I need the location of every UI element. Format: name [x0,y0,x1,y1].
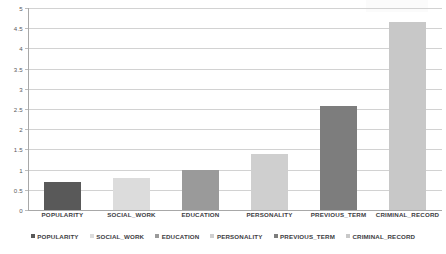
legend-swatch-icon [31,234,35,238]
legend-label: PREVIOUS_TERM [280,233,335,240]
legend-label: POPULARITY [37,233,78,240]
legend-item[interactable]: CRIMINAL_RECORD [346,233,415,240]
bars-layer [28,8,442,211]
y-axis-tick-labels: 00.511.522.533.544.55 [0,8,26,211]
bar [182,170,219,210]
category-label: SOCIAL_WORK [97,211,166,218]
legend-label: PERSONALITY [217,233,263,240]
category-label: PERSONALITY [235,211,304,218]
category-label: EDUCATION [166,211,235,218]
chart-legend: POPULARITYSOCIAL_WORKEDUCATIONPERSONALIT… [0,230,446,242]
x-axis-category-labels: POPULARITYSOCIAL_WORKEDUCATIONPERSONALIT… [28,211,442,225]
y-tick-label: 4.5 [14,25,23,32]
category-label: CRIMINAL_RECORD [373,211,442,218]
y-tick-label: 5 [19,5,23,12]
legend-item[interactable]: PERSONALITY [210,233,262,240]
legend-label: SOCIAL_WORK [96,233,144,240]
bar [389,22,426,210]
legend-item[interactable]: EDUCATION [155,233,199,240]
legend-swatch-icon [155,234,159,238]
y-tick-label: 0.5 [14,186,23,193]
y-tick-label: 1 [19,166,23,173]
y-tick-label: 3.5 [14,65,23,72]
bar [113,178,150,210]
legend-swatch-icon [90,234,94,238]
legend-label: CRIMINAL_RECORD [352,233,415,240]
y-tick-label: 4 [19,45,23,52]
legend-item[interactable]: SOCIAL_WORK [90,233,145,240]
legend-item[interactable]: POPULARITY [31,233,79,240]
category-label: PREVIOUS_TERM [304,211,373,218]
y-tick-label: 2.5 [14,106,23,113]
legend-item[interactable]: PREVIOUS_TERM [274,233,335,240]
legend-label: EDUCATION [162,233,200,240]
bar [251,154,288,210]
bar [44,182,81,210]
category-label: POPULARITY [28,211,97,218]
legend-swatch-icon [210,234,214,238]
legend-swatch-icon [346,234,350,238]
plot-area [28,8,442,211]
bar-chart: 00.511.522.533.544.55 POPULARITYSOCIAL_W… [0,0,446,254]
legend-swatch-icon [274,234,278,238]
bar [320,106,357,210]
y-tick-label: 3 [19,85,23,92]
y-tick-label: 2 [19,126,23,133]
y-tick-label: 0 [19,207,23,214]
y-tick-label: 1.5 [14,146,23,153]
y-axis-line [28,8,29,211]
plot-wrapper: 00.511.522.533.544.55 [0,8,446,211]
